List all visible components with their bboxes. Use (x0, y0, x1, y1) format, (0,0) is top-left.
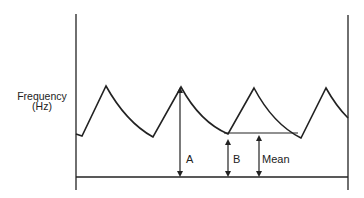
label-a: A (186, 153, 194, 165)
label-b: B (233, 153, 240, 165)
y-axis-unit-label: (Hz) (32, 100, 52, 112)
label-mean: Mean (262, 153, 290, 165)
frequency-diagram: Frequency (Hz) A B Mean (0, 0, 364, 198)
frequency-waveform (76, 86, 348, 138)
